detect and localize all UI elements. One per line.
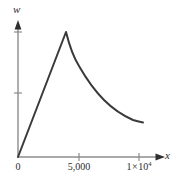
x-axis-label: x <box>165 150 170 161</box>
x-tick-label-5000: 5,000 <box>68 162 91 172</box>
x-tick-10000-multiply-sign: × <box>132 161 139 172</box>
y-axis-arrow-icon <box>15 20 22 30</box>
x-axis-arrow-icon <box>156 154 166 161</box>
plot-area <box>0 0 176 176</box>
x-tick-label-0: 0 <box>16 162 21 172</box>
data-curve <box>18 32 143 157</box>
x-tick-10000-exponent: 4 <box>148 160 151 167</box>
x-tick-10000-mantissa: 10 <box>138 161 148 172</box>
chart-figure: w x 0 5,000 1×104 <box>0 0 176 176</box>
y-axis-label: w <box>13 4 20 15</box>
x-tick-label-10000: 1×104 <box>127 162 152 172</box>
